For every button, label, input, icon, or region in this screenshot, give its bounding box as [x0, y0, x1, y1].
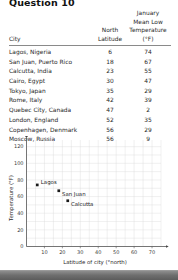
bottom-chrome-bar [0, 271, 178, 280]
y-tick-label: 120 [14, 143, 24, 149]
grid-lines [27, 140, 162, 247]
city-temperature-table: City North Latitude January Mean Low Tem… [9, 9, 171, 144]
y-tick-label: 80 [17, 177, 23, 183]
table-row: Tokyo, Japan 35 29 [9, 86, 171, 96]
y-axis-title: Temperature (°F) [8, 175, 15, 222]
cell-temperature: 67 [125, 57, 171, 67]
cell-city: Quebec City, Canada [9, 106, 95, 116]
cell-latitude: 47 [95, 106, 125, 116]
column-header-temperature-line1: January [137, 10, 159, 16]
x-tick-label: 50 [113, 249, 119, 255]
cell-temperature: 29 [125, 86, 171, 96]
column-header-latitude: North Latitude [95, 9, 125, 45]
table-row: Calcutta, India 23 55 [9, 67, 171, 77]
data-point-label: Lagos [41, 179, 57, 186]
x-tick-label: 10 [41, 249, 47, 255]
data-point-label: San Juan [62, 191, 86, 198]
cell-latitude: 30 [95, 77, 125, 87]
cell-temperature: 47 [125, 77, 171, 87]
cell-latitude: 56 [95, 125, 125, 135]
x-tick-label: 20 [59, 249, 65, 255]
x-axis-title: Latitude of city (°north) [63, 259, 127, 266]
cell-city: Cairo, Egypt [9, 77, 95, 87]
scatter-plot-canvas: 020406080100120 10203040506070 LagosSan … [0, 136, 178, 268]
cell-latitude: 23 [95, 67, 125, 77]
table-row: Cairo, Egypt 30 47 [9, 77, 171, 87]
column-header-latitude-line1: North [102, 27, 118, 33]
y-tick-label: 100 [14, 160, 24, 166]
table-row: Rome, Italy 42 39 [9, 96, 171, 106]
table-row: Quebec City, Canada 47 2 [9, 106, 171, 116]
data-point-marker [36, 184, 39, 187]
cell-city: Rome, Italy [9, 96, 95, 106]
cell-latitude: 35 [95, 86, 125, 96]
y-tick-label: 40 [17, 210, 23, 216]
y-axis-tick-labels: 020406080100120 [14, 143, 24, 249]
x-axis-tick-labels: 10203040506070 [41, 247, 155, 255]
table-row: San Juan, Puerto Rico 18 67 [9, 57, 171, 67]
x-tick-label: 30 [77, 249, 83, 255]
scatter-plot: 020406080100120 10203040506070 LagosSan … [0, 136, 178, 268]
cell-city: Calcutta, India [9, 67, 95, 77]
cell-city: London, England [9, 115, 95, 125]
cell-temperature: 29 [125, 125, 171, 135]
y-tick-label: 20 [17, 227, 23, 233]
cell-temperature: 2 [125, 106, 171, 116]
x-tick-label: 60 [131, 249, 137, 255]
y-tick-label: 0 [20, 243, 23, 249]
column-header-latitude-line2: Latitude [98, 36, 122, 42]
cell-city: Lagos, Nigeria [9, 45, 95, 57]
data-point-marker [57, 189, 60, 192]
cell-latitude: 6 [95, 45, 125, 57]
cell-temperature: 39 [125, 96, 171, 106]
table-row: Copenhagen, Denmark 56 29 [9, 125, 171, 135]
column-header-temperature: January Mean Low Temperature (°F) [125, 9, 171, 45]
cell-city: San Juan, Puerto Rico [9, 57, 95, 67]
x-tick-label: 70 [149, 249, 155, 255]
table-row: London, England 52 35 [9, 115, 171, 125]
cell-city: Tokyo, Japan [9, 86, 95, 96]
column-header-temperature-line2: Mean Low [133, 19, 163, 25]
table-body: Lagos, Nigeria 6 74 San Juan, Puerto Ric… [9, 45, 171, 144]
x-tick-label: 40 [95, 249, 101, 255]
axis-lines [27, 137, 167, 247]
cell-latitude: 52 [95, 115, 125, 125]
column-header-temperature-line3: Temperature (°F) [129, 27, 166, 42]
page-title: Question 10 [9, 0, 75, 8]
cell-latitude: 42 [95, 96, 125, 106]
table-row: Lagos, Nigeria 6 74 [9, 45, 171, 57]
column-header-city: City [9, 9, 95, 45]
data-point-marker [66, 199, 69, 202]
cell-temperature: 74 [125, 45, 171, 57]
cell-temperature: 55 [125, 67, 171, 77]
cell-city: Copenhagen, Denmark [9, 125, 95, 135]
y-tick-label: 60 [17, 193, 23, 199]
cell-temperature: 35 [125, 115, 171, 125]
table-header-row: City North Latitude January Mean Low Tem… [9, 9, 171, 45]
cell-latitude: 18 [95, 57, 125, 67]
data-point-label: Calcutta [71, 201, 93, 207]
